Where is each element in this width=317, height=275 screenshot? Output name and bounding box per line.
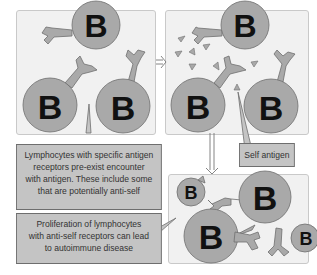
b-label-large: B bbox=[253, 179, 278, 217]
b-cell-top: B bbox=[42, 1, 120, 49]
svg-text:B: B bbox=[111, 89, 136, 127]
callout-self-antigen: Self antigen bbox=[239, 143, 295, 167]
svg-text:B: B bbox=[259, 89, 284, 127]
b-label-edge: B bbox=[300, 229, 313, 249]
callout-pointer bbox=[86, 104, 91, 133]
svg-text:B: B bbox=[233, 8, 256, 44]
b-cell-bottom-left-2: B bbox=[171, 56, 246, 132]
svg-text:B: B bbox=[38, 88, 63, 126]
b-label-small: B bbox=[185, 183, 198, 203]
b-cell-bottom-right: B bbox=[96, 50, 150, 133]
callout-proliferation: Proliferation of lymphocytes with anti-s… bbox=[16, 213, 162, 264]
proliferation-pointer bbox=[160, 218, 176, 232]
b-label-large-2: B bbox=[199, 218, 224, 256]
arrow-down-icon bbox=[206, 133, 218, 174]
callout-pre-exist: Lymphocytes with specific antigen recept… bbox=[16, 144, 162, 210]
svg-text:B: B bbox=[186, 88, 211, 126]
svg-text:B: B bbox=[84, 8, 107, 44]
b-cell-top-2: B bbox=[192, 1, 269, 49]
b-cell-bottom-left: B bbox=[23, 56, 97, 132]
arrow-right-icon bbox=[156, 56, 166, 68]
